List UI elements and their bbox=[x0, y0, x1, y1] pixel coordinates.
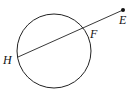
label-F: F bbox=[89, 27, 98, 41]
label-H: H bbox=[2, 53, 13, 67]
geometry-diagram: H F E bbox=[0, 0, 136, 91]
point-E-dot bbox=[121, 8, 125, 12]
secant-line-HE bbox=[18, 10, 123, 57]
circle bbox=[17, 14, 91, 88]
label-E: E bbox=[118, 13, 127, 27]
